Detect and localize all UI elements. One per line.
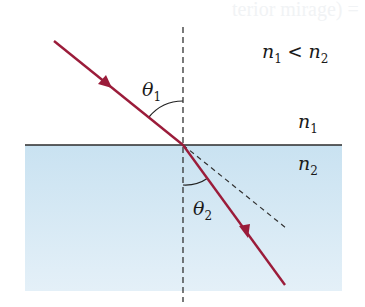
refraction-diagram: terior mirage) = n1 < n2 θ1 n1 n2 θ2	[0, 0, 365, 307]
n1-label: n1	[298, 110, 318, 136]
theta1-label: θ1	[142, 78, 161, 104]
ghost-title-fragment: terior mirage) =	[232, 0, 359, 21]
diagram-canvas: terior mirage) = n1 < n2 θ1 n1 n2 θ2	[0, 0, 365, 307]
condition-label: n1 < n2	[262, 40, 328, 66]
incident-ray	[54, 41, 183, 145]
